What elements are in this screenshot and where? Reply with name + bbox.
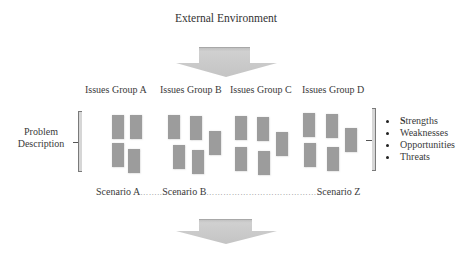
bullet-icon <box>386 132 389 135</box>
issue-card <box>130 115 142 139</box>
issue-card <box>235 147 247 171</box>
issue-card <box>173 145 185 169</box>
swot-item-opportunities: Opportunities <box>384 139 455 151</box>
issue-card <box>257 117 269 141</box>
swot-item-threats: Threats <box>384 151 455 163</box>
issue-card <box>168 115 180 139</box>
scenario-b: Scenario B <box>162 186 206 197</box>
group-label-d: Issues Group D <box>302 84 364 95</box>
bullet-icon <box>386 144 389 147</box>
issue-card <box>209 131 221 155</box>
scenario-row: Scenario A……..Scenario B…………………………………Sce… <box>96 186 360 197</box>
swot-opportunities-text: Opportunities <box>400 139 455 150</box>
issue-card <box>327 147 339 171</box>
scenario-dots-1: …….. <box>140 188 162 197</box>
issue-card <box>345 128 357 152</box>
group-label-c: Issues Group C <box>230 84 292 95</box>
group-label-b: Issues Group B <box>160 84 222 95</box>
down-arrow-icon <box>174 44 280 80</box>
diagram-title: External Environment <box>0 12 452 24</box>
issue-card <box>192 150 204 174</box>
issue-card <box>112 115 124 139</box>
issue-card <box>276 132 288 156</box>
down-arrow-icon <box>174 216 280 248</box>
swot-item-weaknesses: Weaknesses <box>384 127 455 139</box>
problem-label-line1: Problem <box>8 126 74 138</box>
problem-label-line2: Description <box>8 138 74 150</box>
issue-card <box>190 116 202 140</box>
scenario-a: Scenario A <box>96 186 140 197</box>
bullet-icon <box>386 156 389 159</box>
swot-list: Strengths Weaknesses Opportunities Threa… <box>384 115 455 163</box>
bullet-icon <box>386 120 389 123</box>
issue-card <box>304 143 316 167</box>
swot-weaknesses-text: Weaknesses <box>400 127 448 138</box>
issue-card <box>258 151 270 175</box>
problem-description-label: Problem Description <box>8 126 74 149</box>
swot-threats-text: Threats <box>400 151 430 162</box>
right-bracket <box>372 108 376 171</box>
issue-card <box>112 143 124 167</box>
issue-card <box>303 113 315 137</box>
issue-card <box>326 114 338 138</box>
swot-item-strengths: Strengths <box>384 115 455 127</box>
scenario-dots-2: ………………………………… <box>206 188 317 197</box>
issue-card <box>235 116 247 140</box>
left-bracket <box>78 111 82 172</box>
scenario-z: Scenario Z <box>317 186 361 197</box>
swot-strengths-text: trengths <box>406 115 438 126</box>
issue-card <box>128 149 140 173</box>
group-label-a: Issues Group A <box>85 84 147 95</box>
